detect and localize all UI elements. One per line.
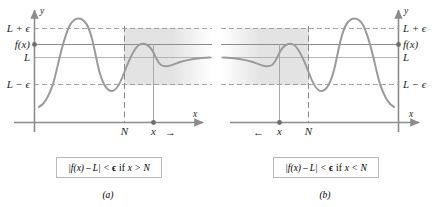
sublabel-b: (b)	[217, 184, 433, 202]
caption-b-rel: <	[352, 163, 357, 173]
caption-a-lt: <	[104, 163, 109, 173]
caption-box-b: |f(x)–L|<ϵifx<N	[273, 157, 379, 178]
label-L-minus-epsilon: L − ϵ	[6, 78, 31, 90]
caption-a-if: if	[119, 163, 125, 173]
caption-a-N: N	[143, 163, 149, 173]
label-x: x	[276, 125, 282, 137]
caption-b-x: x	[345, 163, 349, 173]
caption-b-text: |f(x)–L|<ϵifx<N	[285, 163, 367, 173]
epsilon-band	[221, 28, 309, 85]
caption-a-epsilon: ϵ	[112, 163, 116, 173]
caption-a-text: |f(x)–L|<ϵifx>N	[68, 163, 150, 173]
caption-b-lt: <	[321, 163, 326, 173]
x-axis-label: x	[408, 109, 414, 119]
caption-a-minus: –	[86, 163, 91, 173]
panel-b: y x L + ϵ f(x) L L − ϵ x N ← |f(x)–L|<ϵi…	[217, 0, 433, 207]
dot-f-of-x	[396, 42, 401, 47]
epsilon-band	[124, 28, 212, 85]
y-axis-label: y	[403, 6, 409, 16]
x-direction-arrow: ←	[253, 126, 264, 138]
caption-box-a: |f(x)–L|<ϵifx>N	[56, 157, 162, 178]
caption-a-abs-close: |	[98, 163, 101, 173]
limit-at-infinity-figure: y x L + ϵ f(x) L L − ϵ N x → |f(x)–L|<ϵi…	[0, 0, 433, 207]
label-N: N	[304, 125, 313, 137]
label-x: x	[150, 125, 156, 137]
caption-b-abs-close: |	[315, 163, 318, 173]
label-f-of-x: f(x)	[15, 38, 31, 51]
label-N: N	[120, 125, 129, 137]
sublabel-b-text: (b)	[319, 190, 330, 200]
label-L-plus-epsilon: L + ϵ	[6, 22, 31, 34]
caption-b-minus: –	[303, 163, 308, 173]
dot-f-of-x	[32, 42, 37, 47]
label-L-minus-epsilon: L − ϵ	[402, 78, 427, 90]
caption-b-if: if	[336, 163, 342, 173]
x-axis-label: x	[192, 109, 198, 119]
caption-b-fx: f(x)	[288, 163, 301, 173]
panel-a: y x L + ϵ f(x) L L − ϵ N x → |f(x)–L|<ϵi…	[0, 0, 216, 207]
caption-b-epsilon: ϵ	[329, 163, 333, 173]
sublabel-a: (a)	[0, 184, 216, 202]
label-f-of-x: f(x)	[403, 38, 419, 51]
caption-b-N: N	[360, 163, 366, 173]
label-L: L	[23, 51, 30, 63]
caption-a-fx: f(x)	[71, 163, 84, 173]
caption-a-rel: >	[135, 163, 140, 173]
y-axis-label: y	[39, 6, 45, 16]
caption-a-x: x	[128, 163, 132, 173]
x-direction-arrow: →	[165, 126, 176, 138]
label-L: L	[402, 51, 409, 63]
sublabel-a-text: (a)	[102, 190, 113, 200]
label-L-plus-epsilon: L + ϵ	[402, 22, 427, 34]
